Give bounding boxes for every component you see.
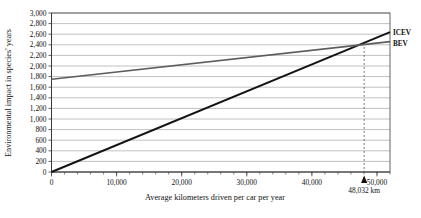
- y-tick-label: 1,400: [30, 93, 47, 102]
- x-tick-label: 20,000: [172, 178, 193, 187]
- x-tick-label: 0: [50, 178, 54, 187]
- line-chart: 02004006008001,0001,2001,4001,6001,8002,…: [0, 0, 421, 218]
- x-tick-label: 40,000: [302, 178, 323, 187]
- y-tick-label: 3,000: [30, 9, 47, 18]
- y-tick-label: 2,600: [30, 30, 47, 39]
- y-tick-label: 1,200: [30, 104, 47, 113]
- y-tick-label: 800: [35, 125, 46, 134]
- y-tick-label: 1,000: [30, 115, 47, 124]
- y-tick-label: 2,800: [30, 19, 47, 28]
- chart-figure: 02004006008001,0001,2001,4001,6001,8002,…: [0, 0, 421, 218]
- legend-label-icev: ICEV: [393, 29, 412, 37]
- legend: ICEV BEV: [393, 29, 412, 48]
- plot-frame: [52, 13, 391, 172]
- x-axis-title: Average kilometers driven per car per ye…: [145, 193, 285, 202]
- x-axis: 010,00020,00030,00040,00050,000: [50, 172, 390, 187]
- y-tick-label: 1,600: [30, 83, 47, 92]
- y-tick-label: 400: [35, 146, 46, 155]
- crossover-label: 48,032 km: [348, 186, 380, 195]
- gridlines: [52, 13, 391, 161]
- y-axis: 02004006008001,0001,2001,4001,6001,8002,…: [30, 9, 52, 177]
- y-tick-label: 1,800: [30, 72, 47, 81]
- y-tick-label: 2,000: [30, 62, 47, 71]
- y-tick-label: 200: [35, 157, 46, 166]
- y-tick-label: 600: [35, 136, 46, 145]
- y-tick-label: 0: [43, 168, 47, 177]
- series-line-bev: [52, 42, 391, 80]
- x-tick-label: 30,000: [237, 178, 258, 187]
- x-tick-label: 10,000: [106, 178, 127, 187]
- y-axis-title: Environmental impact in species' years: [4, 29, 13, 157]
- y-tick-label: 2,200: [30, 51, 47, 60]
- y-tick-label: 2,400: [30, 40, 47, 49]
- legend-label-bev: BEV: [393, 40, 409, 48]
